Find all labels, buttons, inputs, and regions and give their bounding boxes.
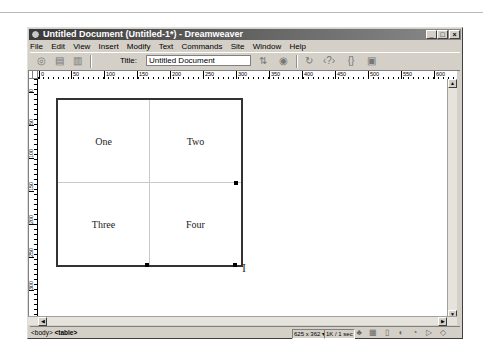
ruler-label: 100 — [29, 146, 34, 159]
menu-window[interactable]: Window — [253, 41, 281, 52]
table-cell[interactable]: Two — [150, 99, 243, 183]
menu-insert[interactable]: Insert — [99, 41, 119, 52]
window-size-dropdown[interactable]: 625 x 362 ▾ — [292, 329, 327, 339]
ruler-label: 200 — [29, 212, 34, 225]
menu-file[interactable]: File — [30, 41, 43, 52]
close-button[interactable]: × — [449, 30, 460, 39]
code-inspector-icon[interactable]: ◇ — [438, 328, 448, 338]
design-view-icon[interactable]: ▥ — [70, 55, 84, 67]
menu-site[interactable]: Site — [231, 41, 245, 52]
scroll-up-button[interactable]: ▲ — [448, 79, 457, 88]
resize-handle-right[interactable] — [234, 181, 238, 185]
code-view-icon[interactable]: ◎ — [34, 55, 48, 67]
table-row: Three Four — [57, 183, 242, 267]
horizontal-scrollbar[interactable]: ◀ ▶ — [28, 316, 457, 325]
refresh-icon[interactable]: ↻ — [302, 55, 316, 67]
menu-view[interactable]: View — [73, 41, 90, 52]
toolbar-separator — [90, 55, 92, 68]
scroll-right-button[interactable]: ▶ — [438, 317, 447, 326]
design-canvas[interactable]: One Two Three Four I — [38, 79, 447, 316]
reference-icon[interactable]: ‹?› — [320, 55, 338, 67]
css-styles-icon[interactable]: ◐ — [396, 328, 406, 338]
resize-handle-bottom[interactable] — [145, 263, 149, 267]
menu-help[interactable]: Help — [289, 41, 305, 52]
dreamweaver-window: Untitled Document (Untitled-1*) - Dreamw… — [27, 27, 463, 339]
download-time: 1K / 1 sec — [324, 329, 355, 339]
code-design-view-icon[interactable]: ▤ — [52, 55, 66, 67]
preview-browser-icon[interactable]: ◉ — [274, 55, 292, 67]
ruler-label: 50 — [29, 113, 34, 126]
scroll-left-button[interactable]: ◀ — [38, 317, 47, 326]
file-management-icon[interactable]: ⇅ — [254, 55, 272, 67]
vertical-scrollbar[interactable]: ▲ ▼ — [447, 79, 457, 319]
code-navigation-icon[interactable]: {} — [342, 55, 360, 67]
dreamweaver-app-icon[interactable] — [31, 30, 40, 39]
vertical-ruler: 0 50 100 150 200 250 300 — [28, 79, 38, 319]
ruler-label: 300 — [29, 278, 34, 291]
table-cell[interactable]: One — [57, 99, 150, 183]
behaviors-icon[interactable]: ◔ — [410, 328, 420, 338]
window-size-value: 625 x 362 — [294, 331, 320, 337]
page-divider — [0, 12, 483, 13]
site-icon[interactable]: ♣ — [354, 328, 364, 338]
table-cell[interactable]: Four — [150, 183, 243, 267]
tag-table[interactable]: <table> — [55, 329, 78, 336]
menu-edit[interactable]: Edit — [51, 41, 65, 52]
ruler-label: 150 — [29, 179, 34, 192]
document-title-input[interactable] — [146, 55, 251, 66]
status-bar: <body> <table> 625 x 362 ▾ 1K / 1 sec ♣ … — [30, 326, 460, 339]
toolbar-separator — [296, 55, 298, 68]
window-title: Untitled Document (Untitled-1*) - Dreamw… — [43, 29, 243, 40]
minimize-button[interactable]: _ — [426, 30, 437, 39]
maximize-button[interactable]: □ — [437, 30, 448, 39]
document-toolbar: ◎ ▤ ▥ Title: ⇅ ◉ ↻ ‹?› {} ▣ — [30, 52, 460, 71]
menu-text[interactable]: Text — [159, 41, 174, 52]
ruler-label: 0 — [29, 80, 34, 93]
ruler-origin[interactable] — [28, 70, 38, 79]
table-row: One Two — [57, 99, 242, 183]
view-options-icon[interactable]: ▣ — [362, 55, 380, 67]
text-cursor-icon: I — [242, 261, 246, 276]
title-label: Title: — [120, 56, 137, 65]
menu-bar: File Edit View Insert Modify Text Comman… — [30, 41, 312, 52]
document-table[interactable]: One Two Three Four — [56, 98, 243, 267]
history-icon[interactable]: ▷ — [424, 328, 434, 338]
table-cell[interactable]: Three — [57, 183, 150, 267]
html-styles-icon[interactable]: ▯ — [382, 328, 392, 338]
ruler-label: 250 — [29, 245, 34, 258]
resize-handle-corner[interactable] — [233, 263, 237, 267]
menu-modify[interactable]: Modify — [127, 41, 151, 52]
tag-selector: <body> <table> — [31, 329, 77, 336]
menu-commands[interactable]: Commands — [182, 41, 223, 52]
title-bar[interactable]: Untitled Document (Untitled-1*) - Dreamw… — [29, 29, 461, 40]
assets-icon[interactable]: ▦ — [368, 328, 378, 338]
tag-body[interactable]: <body> — [31, 329, 53, 336]
